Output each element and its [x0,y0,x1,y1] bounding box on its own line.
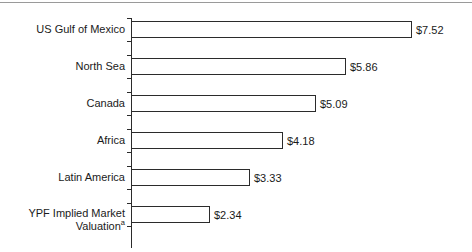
bar-value-label: $3.33 [254,172,282,184]
bar-row: YPF Implied MarketValuationa$2.34 [0,206,472,244]
category-label: Africa [5,134,125,147]
category-label-line: US Gulf of Mexico [5,23,125,36]
bar-value-label: $5.86 [350,61,378,73]
bar [131,58,346,75]
category-label: Latin America [5,171,125,184]
bar [131,132,283,149]
bar-value-label: $7.52 [416,24,444,36]
plot-area: US Gulf of Mexico$7.52North Sea$5.86Cana… [0,0,472,252]
category-label-line: Latin America [5,171,125,184]
bar [131,95,316,112]
axis-tick [127,18,132,19]
bar [131,206,210,223]
bar-chart-figure: US Gulf of Mexico$7.52North Sea$5.86Cana… [0,0,472,252]
category-label-text: Valuation [76,220,121,232]
bar-row: US Gulf of Mexico$7.52 [0,21,472,59]
category-label-line: Canada [5,97,125,110]
bar-value-label: $5.09 [320,98,348,110]
bar-row: North Sea$5.86 [0,58,472,96]
bar-value-label: $2.34 [214,209,242,221]
bar-value-label: $4.18 [287,135,315,147]
category-label-line: YPF Implied Market [5,207,125,220]
category-label-line: North Sea [5,60,125,73]
category-label: US Gulf of Mexico [5,23,125,36]
bar-row: Canada$5.09 [0,95,472,133]
footnote-superscript: a [121,218,125,227]
category-label-line: Africa [5,134,125,147]
category-label: Canada [5,97,125,110]
category-label: YPF Implied MarketValuationa [5,207,125,232]
category-label-line: Valuationa [5,220,125,233]
bar [131,169,250,186]
category-label: North Sea [5,60,125,73]
bar [131,21,412,38]
bar-row: Africa$4.18 [0,132,472,170]
bar-row: Latin America$3.33 [0,169,472,207]
